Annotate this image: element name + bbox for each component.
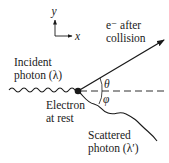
incident-photon-label-line1: Incident — [14, 56, 52, 68]
electron-after-label-line2: collision — [106, 32, 146, 44]
coordinate-axes: y x — [51, 5, 82, 42]
incident-photon-wave — [9, 88, 77, 92]
electron-rest-label-line2: at rest — [46, 112, 75, 124]
compton-scattering-diagram: y x e⁻ after collision Incident photon (… — [0, 0, 169, 163]
electron-rest-label-line1: Electron — [46, 99, 85, 111]
theta-angle-arc — [100, 78, 102, 91]
scattered-photon-label-line2: photon (λ′) — [88, 142, 139, 155]
theta-label: θ — [104, 78, 110, 90]
x-axis-label: x — [74, 30, 81, 42]
phi-angle-arc — [99, 91, 102, 104]
y-axis-label: y — [51, 5, 58, 18]
electron-recoil-arrow — [78, 40, 164, 91]
incident-photon-label-line2: photon (λ) — [14, 69, 62, 82]
scattered-photon-label-line1: Scattered — [88, 129, 131, 141]
phi-label: φ — [103, 93, 110, 106]
electron-after-label-line1: e⁻ after — [106, 19, 141, 31]
electron-dot — [75, 88, 82, 95]
